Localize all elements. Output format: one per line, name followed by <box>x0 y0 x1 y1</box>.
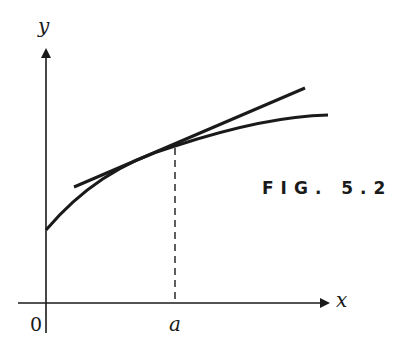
figure-caption: FIG. 5.2 <box>262 180 392 197</box>
figure-canvas <box>0 0 409 345</box>
tick-label-a: a <box>169 314 181 334</box>
y-axis-label: y <box>38 16 49 36</box>
concave-curve <box>46 115 328 230</box>
tangent-line <box>74 88 305 187</box>
x-axis-label: x <box>336 290 347 310</box>
origin-label: 0 <box>30 315 42 334</box>
